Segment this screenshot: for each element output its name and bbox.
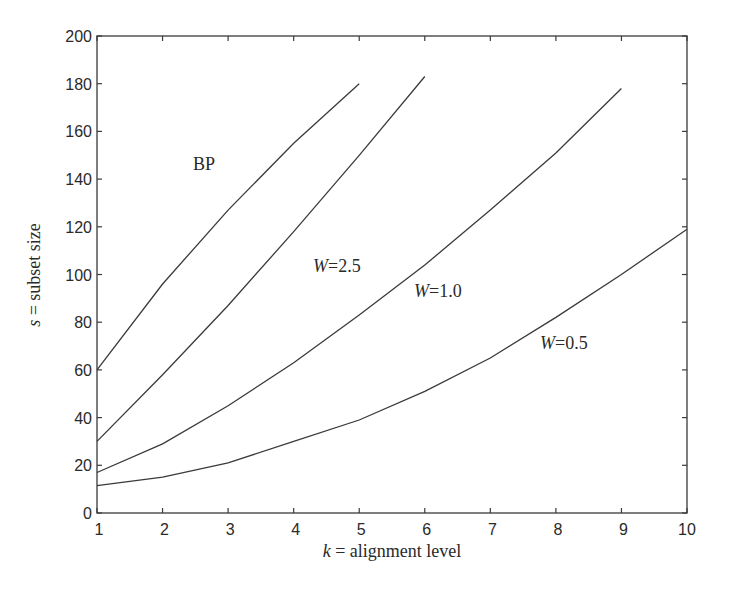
x-tick-label: 10 bbox=[678, 521, 696, 538]
y-tick-label: 40 bbox=[74, 410, 92, 427]
series-label: W=2.5 bbox=[313, 256, 361, 276]
curve-bp bbox=[97, 84, 359, 370]
axis-ticks: 12345678910020406080100120140160180200 bbox=[65, 28, 696, 538]
x-axis-label: k = alignment level bbox=[323, 541, 462, 561]
y-tick-label: 60 bbox=[74, 362, 92, 379]
y-tick-label: 160 bbox=[65, 123, 92, 140]
x-tick-label: 1 bbox=[95, 521, 104, 538]
curve-w-0-5 bbox=[97, 229, 687, 485]
curve-w-2-5 bbox=[97, 77, 425, 442]
y-tick-label: 200 bbox=[65, 28, 92, 45]
y-tick-label: 0 bbox=[83, 505, 92, 522]
x-tick-label: 5 bbox=[357, 521, 366, 538]
x-tick-label: 4 bbox=[291, 521, 300, 538]
y-tick-label: 100 bbox=[65, 267, 92, 284]
y-tick-label: 140 bbox=[65, 171, 92, 188]
line-chart: 12345678910020406080100120140160180200 B… bbox=[0, 0, 734, 593]
y-tick-label: 20 bbox=[74, 457, 92, 474]
x-tick-label: 8 bbox=[553, 521, 562, 538]
series-label: W=1.0 bbox=[414, 281, 462, 301]
series-labels: BPW=2.5W=1.0W=0.5 bbox=[193, 154, 588, 353]
x-tick-label: 9 bbox=[619, 521, 628, 538]
curve-w-1-0 bbox=[97, 89, 621, 473]
y-tick-label: 120 bbox=[65, 219, 92, 236]
plot-border bbox=[97, 36, 687, 513]
series-label: BP bbox=[193, 154, 215, 174]
x-tick-label: 2 bbox=[160, 521, 169, 538]
x-tick-label: 6 bbox=[422, 521, 431, 538]
curves bbox=[97, 77, 687, 486]
y-tick-label: 80 bbox=[74, 314, 92, 331]
series-label: W=0.5 bbox=[540, 333, 588, 353]
x-tick-label: 3 bbox=[226, 521, 235, 538]
y-axis-label: s = subset size bbox=[24, 223, 44, 327]
y-tick-label: 180 bbox=[65, 76, 92, 93]
plot-frame bbox=[97, 36, 687, 513]
x-tick-label: 7 bbox=[488, 521, 497, 538]
